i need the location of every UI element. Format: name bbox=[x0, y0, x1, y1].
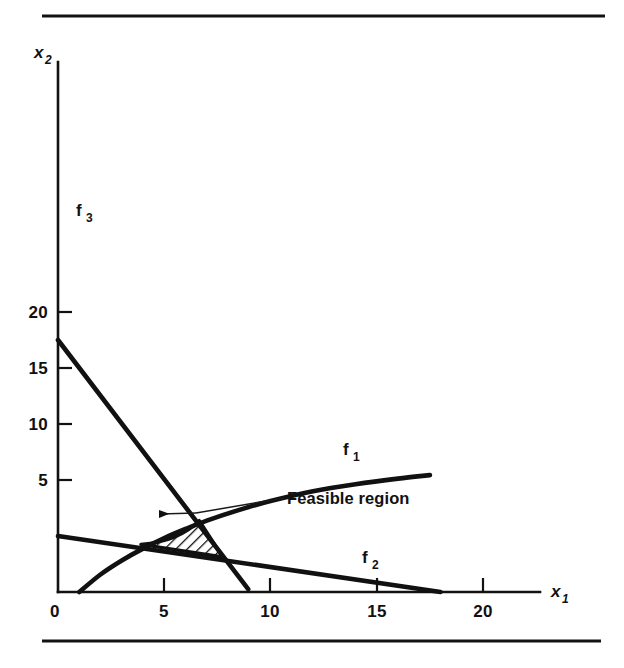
x-axis-label: x 1 bbox=[550, 582, 569, 606]
y-tick-label-15: 15 bbox=[28, 359, 48, 378]
x-tick-label-10: 10 bbox=[260, 602, 280, 621]
y-axis-label-subscript: 2 bbox=[44, 53, 52, 67]
x-tick-label-0: 0 bbox=[50, 602, 60, 621]
curve-label-f3-subscript: 3 bbox=[86, 211, 93, 225]
y-axis-label: x 2 bbox=[33, 43, 52, 67]
x-tick-label-15: 15 bbox=[367, 602, 387, 621]
x-tick-label-20: 20 bbox=[473, 602, 493, 621]
curve-label-f1-base: f bbox=[343, 440, 349, 459]
curve-label-f3-base: f bbox=[76, 201, 82, 220]
x-axis-label-base: x bbox=[550, 582, 562, 601]
y-tick-label-10: 10 bbox=[28, 415, 48, 434]
curve-label-f1-subscript: 1 bbox=[353, 450, 360, 464]
x-axis-label-subscript: 1 bbox=[562, 592, 569, 606]
x-tick-label-5: 5 bbox=[159, 602, 169, 621]
curve-label-f3: f 3 bbox=[76, 201, 93, 225]
curve-label-f1: f 1 bbox=[343, 440, 360, 464]
feasible-region-arrow bbox=[160, 513, 196, 514]
y-tick-label-5: 5 bbox=[38, 471, 48, 490]
curve-label-f2-subscript: 2 bbox=[372, 558, 379, 572]
figure-root: 5 10 15 20 0 5 10 15 20 x 2 x 1 bbox=[0, 0, 624, 668]
curve-label-f2: f 2 bbox=[362, 548, 379, 572]
feasible-region-plot: 5 10 15 20 0 5 10 15 20 x 2 x 1 bbox=[0, 0, 624, 668]
y-axis-label-base: x bbox=[33, 43, 45, 62]
curve-label-f2-base: f bbox=[362, 548, 368, 567]
y-tick-label-20: 20 bbox=[28, 303, 48, 322]
feasible-region-label: Feasible region bbox=[287, 489, 410, 507]
